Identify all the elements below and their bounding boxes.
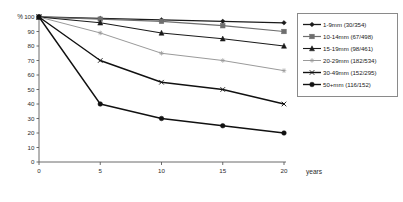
y-tick-label: 10 <box>28 144 35 151</box>
y-tick-label: 80 <box>28 42 35 49</box>
data-point-marker <box>220 123 225 128</box>
y-axis-title: % <box>17 13 23 20</box>
data-point-marker <box>282 21 287 26</box>
legend-label: 1-9mm (30/354) <box>323 20 366 29</box>
legend-label: 30-49mm (152/295) <box>323 68 377 77</box>
y-tick-label: 50 <box>28 86 35 93</box>
x-tick-label: 20 <box>281 167 288 174</box>
legend-item[interactable]: 15-19mm (98/461) <box>302 42 397 54</box>
x-tick-label: 0 <box>37 167 41 174</box>
data-point-marker <box>282 29 287 34</box>
y-tick-label: 70 <box>28 57 35 64</box>
legend-marker-cross-icon <box>302 68 322 77</box>
data-point-marker <box>220 23 225 28</box>
data-point-marker <box>220 58 225 63</box>
legend-item[interactable]: 1-9mm (30/354) <box>302 18 397 30</box>
data-point-marker <box>98 102 103 107</box>
legend-label: 20-29mm (182/534) <box>323 56 377 65</box>
legend-label: 50+mm (116/152) <box>323 80 371 89</box>
legend-marker-square-icon <box>302 32 322 41</box>
data-point-marker <box>159 116 164 121</box>
data-point-marker <box>310 58 315 63</box>
x-axis-title: years <box>306 168 323 176</box>
data-point-marker <box>282 131 287 136</box>
y-tick-label: 90 <box>28 28 35 35</box>
legend-marker-diamond-icon <box>302 20 322 29</box>
y-tick-label: 100 <box>24 13 35 20</box>
data-point-marker <box>310 34 315 39</box>
legend-marker-circle-icon <box>302 80 322 89</box>
data-point-marker <box>310 22 315 27</box>
legend-label: 15-19mm (98/461) <box>323 44 373 53</box>
legend-item[interactable]: 50+mm (116/152) <box>302 78 397 90</box>
data-point-marker <box>98 31 103 36</box>
y-tick-label: 60 <box>28 71 35 78</box>
y-tick-label: 40 <box>28 100 35 107</box>
y-tick-label: 30 <box>28 115 35 122</box>
legend-item[interactable]: 20-29mm (182/534) <box>302 54 397 66</box>
legend-marker-triangle-icon <box>302 44 322 53</box>
legend-marker-star-icon <box>302 56 322 65</box>
legend-item[interactable]: 10-14mm (67/498) <box>302 30 397 42</box>
chart-legend: 1-9mm (30/354) 10-14mm (67/498) 15-19mm … <box>297 13 398 97</box>
data-point-marker <box>220 19 225 24</box>
data-point-marker <box>159 51 164 56</box>
data-point-marker <box>37 15 42 20</box>
y-tick-label: 0 <box>31 158 35 165</box>
x-tick-label: 10 <box>158 167 165 174</box>
data-point-marker <box>159 19 164 24</box>
survival-curve-chart: 1009080706050403020100%05101520years 1-9… <box>0 0 403 202</box>
x-tick-label: 15 <box>219 167 226 174</box>
y-tick-label: 20 <box>28 129 35 136</box>
data-point-marker <box>282 68 287 73</box>
legend-item[interactable]: 30-49mm (152/295) <box>302 66 397 78</box>
legend-label: 10-14mm (67/498) <box>323 32 373 41</box>
data-point-marker <box>310 82 315 87</box>
x-tick-label: 5 <box>99 167 103 174</box>
